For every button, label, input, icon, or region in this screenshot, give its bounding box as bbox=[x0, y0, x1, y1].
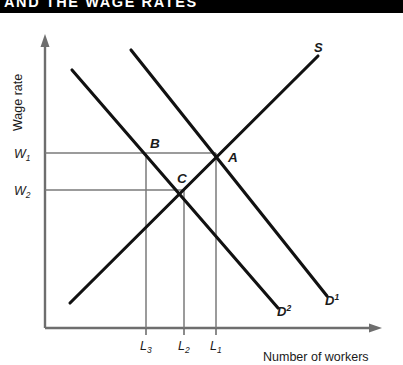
curve-label-d1: D1 bbox=[325, 292, 339, 308]
point-label-b: B bbox=[150, 136, 160, 151]
x-tick-label-l2-base: L bbox=[178, 339, 185, 353]
x-tick-label-l1: L1 bbox=[210, 339, 222, 355]
y-tick-label-w1: W1 bbox=[14, 147, 31, 163]
curve-label-s-base: S bbox=[314, 40, 323, 55]
x-tick-label-l1-sub: 1 bbox=[217, 345, 222, 355]
x-tick-label-l3: L3 bbox=[140, 339, 152, 355]
x-axis bbox=[45, 324, 382, 333]
curve-label-d2-sup: 2 bbox=[285, 303, 291, 313]
page-header-bar: AND THE WAGE RATES bbox=[0, 0, 403, 13]
x-tick-label-l2: L2 bbox=[178, 339, 190, 355]
x-tick-label-l3-base: L bbox=[140, 339, 147, 353]
y-tick-label-w2-sub: 2 bbox=[25, 190, 31, 200]
x-axis-title: Number of workers bbox=[263, 350, 369, 364]
y-tick-label-w1-sub: 1 bbox=[26, 153, 31, 163]
y-axis-title: Wage rate bbox=[11, 74, 25, 131]
wage-rate-diagram: Wage rate Number of workers W1 W2 L3 L2 … bbox=[0, 13, 403, 365]
y-tick-label-w2: W2 bbox=[14, 184, 31, 200]
page-header-title: AND THE WAGE RATES bbox=[4, 0, 198, 10]
curve-label-s: S bbox=[314, 40, 323, 55]
supply-curve-s bbox=[70, 56, 318, 303]
curve-label-d1-sup: 1 bbox=[334, 292, 339, 302]
x-tick-label-l2-sub: 2 bbox=[184, 345, 190, 355]
x-tick-label-l3-sub: 3 bbox=[147, 345, 152, 355]
figure-page: AND THE WAGE RATES bbox=[0, 0, 403, 365]
point-label-a: A bbox=[227, 150, 238, 165]
curve-label-d2: D2 bbox=[277, 303, 291, 319]
x-tick-label-l1-base: L bbox=[210, 339, 217, 353]
y-axis bbox=[41, 34, 50, 328]
point-label-c: C bbox=[177, 171, 187, 186]
